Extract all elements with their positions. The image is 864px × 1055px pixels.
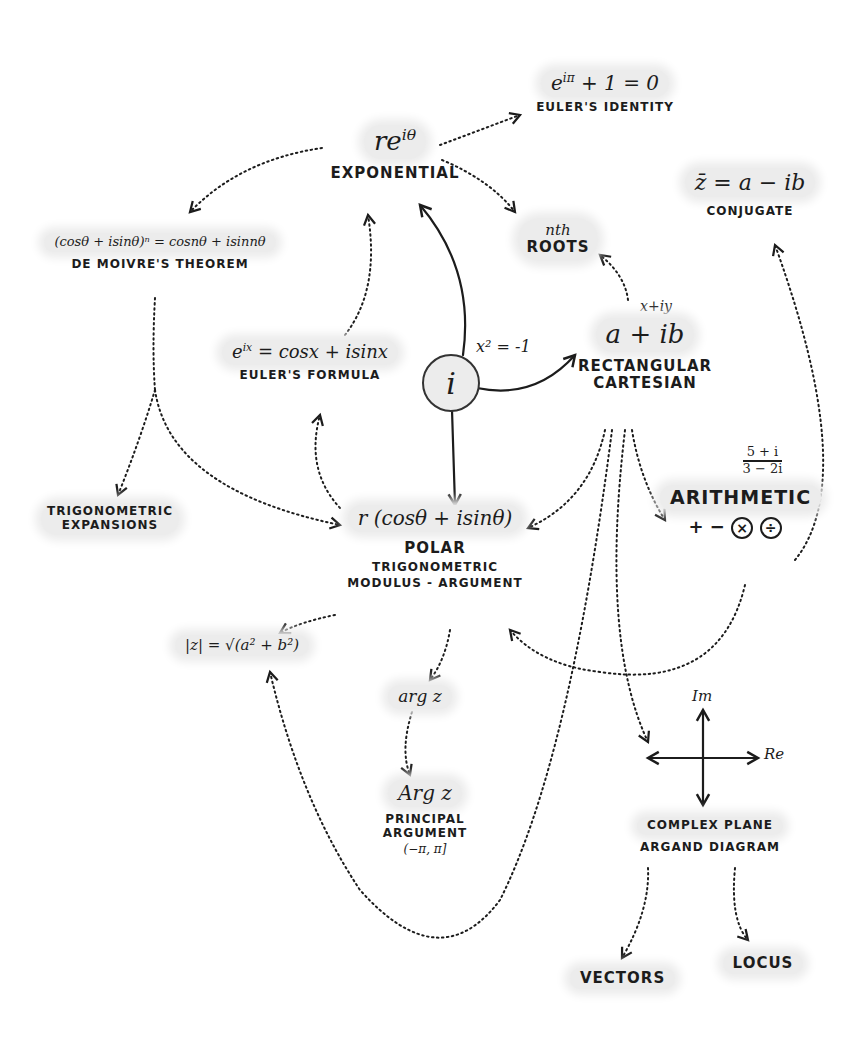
node-conjugate: z̄ = a − ib CONJUGATE	[670, 168, 830, 219]
principal-arg-formula: Arg z	[388, 780, 462, 807]
plus-icon: +	[688, 516, 703, 537]
modulus-formula: |z| = √(a² + b²)	[175, 635, 309, 656]
rectangular-label1: RECTANGULAR	[570, 358, 720, 375]
node-vectors: VECTORS	[570, 968, 670, 989]
axis-label-im: Im	[692, 688, 712, 705]
complex-plane-label2: ARGAND DIAGRAM	[620, 841, 800, 855]
rectangular-label2: CARTESIAN	[570, 375, 720, 392]
arrow-polar-to-euler	[316, 415, 341, 508]
node-polar: r (cosθ + isinθ) POLAR TRIGONOMETRIC MOD…	[330, 505, 540, 591]
arrow-plane-to-vectors	[622, 868, 648, 958]
node-euler-identity: eiπ + 1 = 0 EULER'S IDENTITY	[515, 70, 695, 115]
multiply-icon: ×	[731, 517, 753, 539]
arrow-exp-to-demoivre	[190, 148, 322, 212]
arrow-i-to-rect	[477, 355, 575, 391]
conjugate-label: CONJUGATE	[670, 205, 830, 219]
arithmetic-example: 5 + i 3 − 2i	[743, 445, 783, 477]
arrow-euler-to-exp	[345, 215, 371, 335]
de-moivre-label: DE MOIVRE'S THEOREM	[20, 258, 300, 272]
node-principal-arg: Arg z PRINCIPAL ARGUMENT (−π, π]	[370, 780, 480, 856]
arrow-demoivre-to-trig	[118, 390, 155, 495]
arrow-polar-to-modulus	[280, 615, 335, 633]
polar-formula: r (cosθ + isinθ)	[348, 505, 523, 532]
arrow-i-to-exp	[420, 205, 465, 355]
node-arithmetic: 5 + i 3 − 2i ARITHMETIC + − × ÷	[660, 445, 810, 539]
principal-arg-label2: ARGUMENT	[370, 827, 480, 841]
node-locus: LOCUS	[718, 953, 808, 974]
node-rectangular: x+iy a + ib RECTANGULAR CARTESIAN	[570, 298, 720, 392]
polar-label3: MODULUS - ARGUMENT	[330, 577, 540, 591]
axis-label-re: Re	[764, 746, 784, 763]
arithmetic-label: ARITHMETIC	[660, 485, 821, 511]
node-complex-plane: COMPLEX PLANE ARGAND DIAGRAM	[620, 815, 800, 855]
principal-arg-range: (−π, π]	[370, 843, 480, 857]
euler-identity-formula: eiπ + 1 = 0	[541, 70, 669, 97]
vectors-label: VECTORS	[570, 968, 675, 989]
arg-formula: arg z	[388, 685, 452, 709]
arrow-arith-to-polar	[510, 585, 745, 675]
arrow-plane-to-locus	[734, 868, 748, 940]
line-demoivre-down	[154, 298, 156, 390]
center-i-node: i	[422, 354, 480, 412]
euler-identity-label: EULER'S IDENTITY	[515, 101, 695, 115]
minus-icon: −	[710, 516, 725, 537]
euler-formula-formula: eix = cosx + isinx	[222, 340, 398, 365]
trig-expansions-label2: EXPANSIONS	[47, 519, 173, 533]
node-de-moivre: (cosθ + isinθ)ⁿ = cosnθ + isinnθ DE MOIV…	[20, 232, 300, 272]
trig-expansions-label1: TRIGONOMETRIC	[47, 505, 173, 519]
node-trig-expansions: TRIGONOMETRIC EXPANSIONS	[40, 503, 180, 535]
node-nth-roots: nth ROOTS	[518, 218, 598, 261]
principal-arg-label1: PRINCIPAL	[370, 813, 480, 827]
arrow-rect-to-plane	[616, 430, 648, 742]
nth-roots-line2: ROOTS	[526, 239, 589, 256]
arrow-arg-to-Arg	[405, 712, 412, 775]
rectangular-alt: x+iy	[640, 298, 720, 314]
exponential-formula: reiθ	[364, 125, 426, 159]
complex-plane-label1: COMPLEX PLANE	[637, 817, 783, 835]
nth-roots-line1: nth	[526, 222, 589, 239]
node-arg: arg z	[380, 685, 460, 709]
polar-label2: TRIGONOMETRIC	[330, 561, 540, 575]
node-euler-formula: eix = cosx + isinx EULER'S FORMULA	[205, 340, 415, 382]
exponential-label: EXPONENTIAL	[320, 165, 470, 182]
locus-label: LOCUS	[723, 953, 804, 974]
conjugate-formula: z̄ = a − ib	[685, 168, 816, 197]
arrow-polar-to-arg	[430, 630, 450, 680]
rectangular-formula: a + ib	[596, 318, 695, 352]
de-moivre-formula: (cosθ + isinθ)ⁿ = cosnθ + isinnθ	[44, 233, 275, 252]
node-modulus: |z| = √(a² + b²)	[172, 635, 312, 656]
arrow-demoivre-to-polar	[155, 390, 340, 525]
polar-label1: POLAR	[330, 540, 540, 557]
arrow-rect-to-roots	[600, 255, 628, 300]
divide-icon: ÷	[760, 517, 782, 539]
arithmetic-operators: + − × ÷	[660, 517, 810, 539]
euler-formula-label: EULER'S FORMULA	[205, 369, 415, 383]
node-exponential: reiθ EXPONENTIAL	[320, 125, 470, 182]
i-relation: x² = -1	[476, 338, 531, 356]
arrow-i-to-polar	[452, 410, 455, 505]
